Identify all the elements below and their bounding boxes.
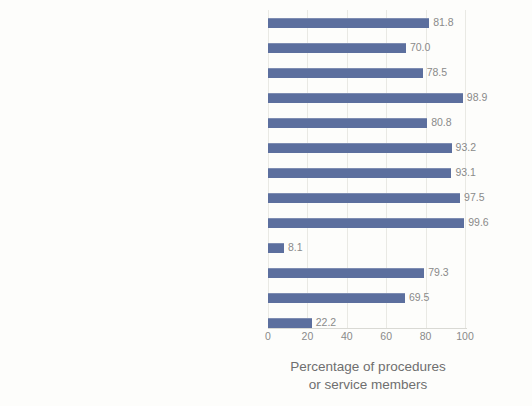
bar-value-label: 70.0 <box>406 35 430 60</box>
bar-row: Chronic pain: nonopioids and/or NPT93.2 <box>268 135 465 160</box>
bar-value-label: 81.8 <box>429 10 453 35</box>
bar-row: Opioids: lower-risk average dose97.5 <box>268 185 465 210</box>
x-tick-100: 100 <box>456 330 474 342</box>
bar-value-label: 99.6 <box>464 210 488 235</box>
bar <box>268 118 427 128</box>
bar <box>268 218 464 228</box>
bar-row: Opioids: no concurrent benzodiazepines93… <box>268 160 465 185</box>
bar <box>268 193 460 203</box>
bar <box>268 268 424 278</box>
bar-row: Opioids: naloxone in LOT, higher-risk do… <box>268 235 465 260</box>
plot-area: Acute pain: ambulatory procedures81.8Acu… <box>268 10 465 328</box>
x-tick-20: 20 <box>302 330 314 342</box>
x-tick-40: 40 <box>341 330 353 342</box>
bar <box>268 243 284 253</box>
bar <box>268 168 451 178</box>
bar-row: Opioids: no advancement to LOT99.6 <box>268 210 465 235</box>
bar-row: Chronic pain: NPT80.8 <box>268 110 465 135</box>
bar-value-label: 80.8 <box>427 110 451 135</box>
x-tick-0: 0 <box>265 330 271 342</box>
bar <box>268 318 312 328</box>
x-tick-80: 80 <box>420 330 432 342</box>
x-tick-60: 60 <box>380 330 392 342</box>
bar-value-label: 8.1 <box>284 235 303 260</box>
bar-value-label: 69.5 <box>405 285 429 310</box>
bar <box>268 18 429 28</box>
bar-row: Acute low back pain: NSAIDs and/or NPT, … <box>268 35 465 60</box>
bar-value-label: 22.2 <box>312 310 336 335</box>
x-axis-line <box>268 328 467 329</box>
bar-value-label: 93.2 <box>452 135 476 160</box>
bar-value-label: 78.5 <box>423 60 447 85</box>
bar-value-label: 93.1 <box>451 160 475 185</box>
x-axis-title: Percentage of procedures or service memb… <box>268 358 468 394</box>
bar-row: Acute low back pain: no benzodiazepines9… <box>268 85 465 110</box>
bar <box>268 293 405 303</box>
bar-value-label: 97.5 <box>460 185 484 210</box>
bar <box>268 43 406 53</box>
x-axis-title-line1: Percentage of procedures <box>268 358 468 376</box>
bar-row: Acute low back pain: stepped care78.5 <box>268 60 465 85</box>
bar <box>268 68 423 78</box>
bar-value-label: 98.9 <box>463 85 487 110</box>
bar-row: Opioids: urine drug test in LOT69.5 <box>268 285 465 310</box>
bar-row: Acute pain: ambulatory procedures81.8 <box>268 10 465 35</box>
bar <box>268 93 463 103</box>
bar-chart: Acute pain: ambulatory procedures81.8Acu… <box>0 0 532 406</box>
bar-row: Opioids: follow-up visit in LOT79.3 <box>268 260 465 285</box>
bar <box>268 143 452 153</box>
bar-value-label: 79.3 <box>424 260 448 285</box>
x-axis-title-line2: or service members <box>268 376 468 394</box>
bar-row: OUD: medication treatment22.2 <box>268 310 465 335</box>
